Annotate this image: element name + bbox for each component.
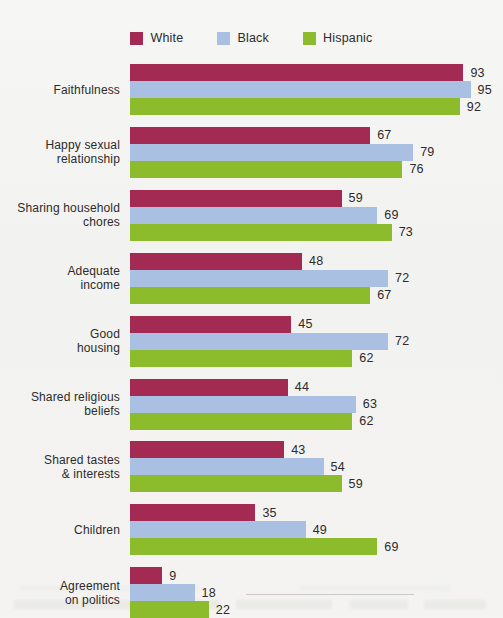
bar-row: 63 (130, 396, 402, 413)
bar-group: Sharing householdchores596973 (0, 190, 503, 241)
category-label: Shared tastes& interests (8, 453, 120, 481)
bar-value-label: 69 (384, 208, 398, 222)
category-label: Goodhousing (8, 327, 120, 355)
bar-row: 43 (130, 441, 330, 458)
category-label-line: relationship (8, 152, 120, 166)
bar-row: 72 (130, 333, 434, 350)
bar-group: Faithfulness939592 (0, 64, 503, 115)
bar-row: 9 (130, 567, 208, 584)
bar-row: 92 (130, 98, 503, 115)
category-label: Faithfulness (8, 83, 120, 97)
bar-value-label: 93 (470, 66, 484, 80)
category-label-line: Shared tastes (8, 453, 120, 467)
bar-group: Shared tastes& interests435459 (0, 441, 503, 492)
category-label: Children (8, 523, 120, 537)
bar-group: Agreementon politics91822 (0, 567, 503, 618)
bar-row: 76 (130, 161, 448, 178)
bar-value-label: 18 (202, 586, 216, 600)
bar-group: Goodhousing457262 (0, 316, 503, 367)
bar-white (130, 379, 288, 396)
bar-white (130, 316, 291, 333)
bar-black (130, 333, 388, 350)
bar-hispanic (130, 350, 352, 367)
bar-value-label: 72 (395, 271, 409, 285)
bar-row: 95 (130, 81, 503, 98)
bar-hispanic (130, 98, 460, 115)
bar-row: 67 (130, 287, 416, 304)
bar-row: 49 (130, 521, 352, 538)
category-label-line: Agreement (8, 579, 120, 593)
bar-row: 18 (130, 584, 241, 601)
bar-group: Happy sexualrelationship677976 (0, 127, 503, 178)
bar-value-label: 9 (169, 569, 176, 583)
bar-white (130, 441, 284, 458)
bar-hispanic (130, 287, 370, 304)
bar-value-label: 76 (409, 162, 423, 176)
bar-value-label: 72 (395, 334, 409, 348)
category-label-line: & interests (8, 467, 120, 481)
bar-black (130, 458, 324, 475)
bar-black (130, 270, 388, 287)
bar-group: Shared religiousbeliefs446362 (0, 379, 503, 430)
bar-hispanic (130, 601, 209, 618)
bar-hispanic (130, 538, 377, 555)
bar-value-label: 73 (399, 225, 413, 239)
bar-row: 69 (130, 207, 423, 224)
bar-row: 48 (130, 253, 348, 270)
bar-row: 45 (130, 316, 337, 333)
category-label: Adequateincome (8, 264, 120, 292)
bar-hispanic (130, 224, 392, 241)
bar-value-label: 22 (216, 603, 230, 617)
bar-value-label: 48 (309, 254, 323, 268)
bar-group: Adequateincome487267 (0, 253, 503, 304)
bar-white (130, 190, 342, 207)
bar-hispanic (130, 475, 342, 492)
bar-value-label: 49 (313, 523, 327, 537)
bar-value-label: 54 (331, 460, 345, 474)
bar-black (130, 521, 306, 538)
category-label-line: income (8, 278, 120, 292)
bar-white (130, 127, 370, 144)
bar-value-label: 44 (295, 380, 309, 394)
bar-value-label: 67 (377, 288, 391, 302)
bar-row: 22 (130, 601, 255, 618)
bar-row: 72 (130, 270, 434, 287)
bar-row: 69 (130, 538, 423, 555)
bar-black (130, 396, 356, 413)
bar-black (130, 207, 377, 224)
bar-value-label: 59 (349, 477, 363, 491)
bar-white (130, 567, 162, 584)
bar-black (130, 81, 471, 98)
bar-hispanic (130, 413, 352, 430)
bar-value-label: 59 (349, 191, 363, 205)
category-label-line: housing (8, 341, 120, 355)
bar-value-label: 69 (384, 540, 398, 554)
bar-black (130, 144, 413, 161)
category-label: Shared religiousbeliefs (8, 390, 120, 418)
bar-row: 73 (130, 224, 438, 241)
bar-row: 54 (130, 458, 370, 475)
bar-value-label: 43 (291, 443, 305, 457)
bar-value-label: 45 (298, 317, 312, 331)
bar-value-label: 35 (262, 506, 276, 520)
bar-value-label: 63 (363, 397, 377, 411)
bar-row: 44 (130, 379, 334, 396)
bar-value-label: 62 (359, 351, 373, 365)
bar-row: 67 (130, 127, 416, 144)
category-label: Happy sexualrelationship (8, 138, 120, 166)
bar-group: Children354969 (0, 504, 503, 555)
bar-value-label: 67 (377, 128, 391, 142)
bar-white (130, 64, 463, 81)
bar-row: 93 (130, 64, 503, 81)
category-label: Sharing householdchores (8, 201, 120, 229)
category-label: Agreementon politics (8, 579, 120, 607)
category-label-line: Adequate (8, 264, 120, 278)
category-label-line: on politics (8, 593, 120, 607)
bar-row: 59 (130, 190, 388, 207)
bar-row: 79 (130, 144, 459, 161)
category-label-line: beliefs (8, 404, 120, 418)
bar-value-label: 95 (478, 83, 492, 97)
bar-white (130, 504, 255, 521)
bar-hispanic (130, 161, 402, 178)
